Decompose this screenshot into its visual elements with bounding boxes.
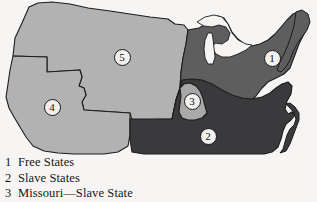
map-legend: 1 Free States 2 Slave States 3 Missouri—… <box>5 155 185 202</box>
map-marker-1-number: 1 <box>269 53 275 64</box>
map-marker-3-number: 3 <box>189 96 195 107</box>
legend-item-label: Missouri—Slave State <box>18 186 133 201</box>
legend-item-free-states: 1 Free States <box>5 155 185 171</box>
map-marker-2: 2 <box>200 128 217 145</box>
legend-item-number: 1 <box>5 155 18 170</box>
map-marker-4: 4 <box>44 99 61 116</box>
legend-item-slave-states: 2 Slave States <box>5 171 185 187</box>
map-marker-2-number: 2 <box>205 131 211 142</box>
map-canvas: 1 2 3 4 5 <box>0 0 317 155</box>
map-marker-3: 3 <box>184 93 201 110</box>
map-figure: 1 2 3 4 5 1 Free States 2 Slave States 3… <box>0 0 317 202</box>
legend-item-number: 2 <box>5 171 18 186</box>
legend-item-label: Free States <box>18 155 74 170</box>
map-marker-5-number: 5 <box>119 52 125 63</box>
map-marker-1: 1 <box>264 50 281 67</box>
legend-item-number: 3 <box>5 186 18 201</box>
map-marker-4-number: 4 <box>49 102 55 113</box>
us-map-svg <box>0 0 317 155</box>
map-marker-5: 5 <box>114 49 131 66</box>
legend-item-missouri: 3 Missouri—Slave State <box>5 186 185 202</box>
legend-item-label: Slave States <box>18 171 80 186</box>
